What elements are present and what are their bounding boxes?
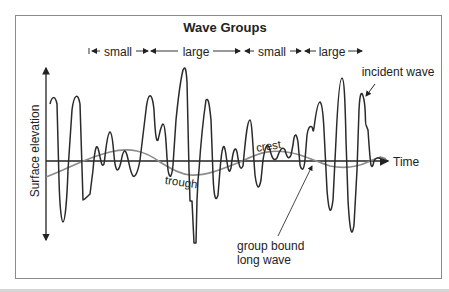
long-wave-label-line2: long wave	[237, 253, 291, 267]
y-axis-label: Surface elevation	[28, 105, 42, 198]
incident-wave	[50, 68, 382, 243]
group-label-large-1: large	[183, 45, 210, 59]
wave-diagram: Wave Groups small large small large Surf…	[0, 0, 449, 292]
diagram-title: Wave Groups	[183, 20, 266, 35]
x-axis-label: Time	[393, 155, 420, 169]
incident-wave-label: incident wave	[362, 65, 435, 79]
group-label-small-2: small	[258, 45, 286, 59]
group-label-small-1: small	[104, 45, 132, 59]
group-label-large-2: large	[319, 45, 346, 59]
long-wave-label-line1: group bound	[237, 239, 304, 253]
incident-wave-pointer	[366, 84, 375, 96]
long-wave-pointer	[278, 166, 312, 236]
trough-label: trough	[164, 174, 198, 190]
